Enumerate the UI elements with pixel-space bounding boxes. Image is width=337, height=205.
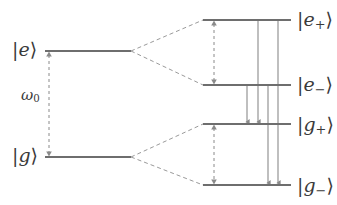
transition-arrow-group <box>247 20 278 183</box>
label-ket-g-plus: |g+⟩ <box>297 113 334 137</box>
excited-doublet-arrowhead-up <box>211 20 217 25</box>
label-ket-e: |e⟩ <box>12 38 37 61</box>
dashed-arrow-group <box>46 20 217 184</box>
omega0-arrowhead-up <box>46 51 52 56</box>
label-ket-e-plus: |e+⟩ <box>297 8 333 32</box>
fan-connector-group <box>131 20 203 185</box>
label-omega-zero: ω0 <box>21 86 40 104</box>
fan-line-g-to-g-plus <box>131 124 203 157</box>
ground-doublet-arrowhead-up <box>211 124 217 129</box>
fan-line-e-to-e-minus <box>131 51 203 85</box>
label-ket-g-minus: |g−⟩ <box>297 174 334 198</box>
omega0-arrowhead-down <box>46 152 52 157</box>
energy-level-diagram: |e⟩ |g⟩ ω0 |e+⟩ |e−⟩ |g+⟩ |g−⟩ <box>0 0 337 205</box>
level-diagram-canvas: |e⟩ |g⟩ ω0 |e+⟩ |e−⟩ |g+⟩ |g−⟩ <box>0 0 337 205</box>
label-ket-g: |g⟩ <box>12 144 38 167</box>
fan-line-e-to-e-plus <box>131 20 203 51</box>
excited-doublet-arrowhead-down <box>211 80 217 85</box>
label-ket-e-minus: |e−⟩ <box>297 73 333 97</box>
fan-line-g-to-g-minus <box>131 157 203 185</box>
level-line-group <box>45 20 291 185</box>
label-group: |e⟩ |g⟩ ω0 |e+⟩ |e−⟩ |g+⟩ |g−⟩ <box>12 8 334 198</box>
ground-doublet-arrowhead-down <box>211 180 217 185</box>
